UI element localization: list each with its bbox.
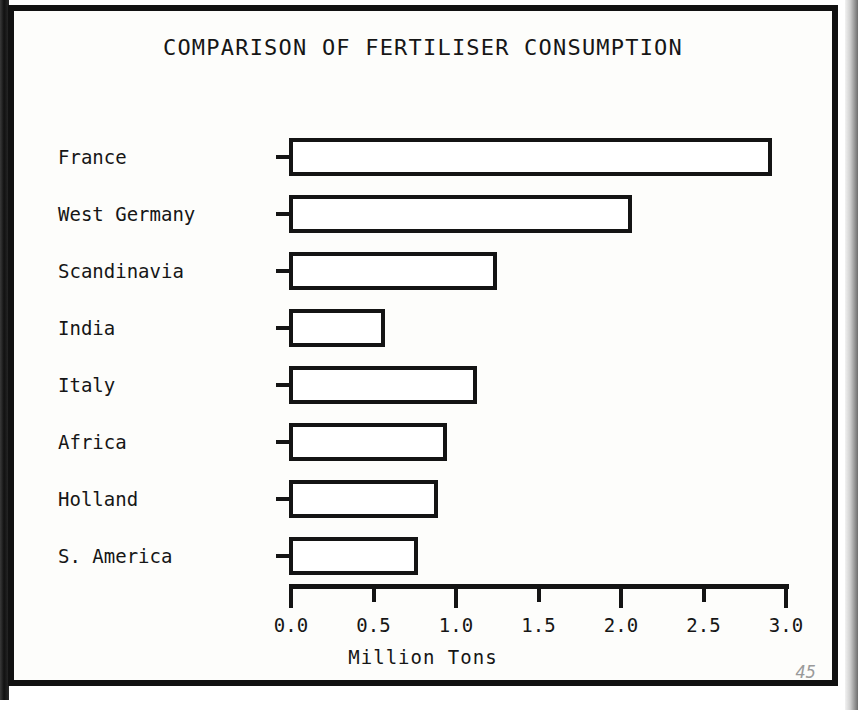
x-axis-tick-label: 0.0 <box>256 614 326 636</box>
x-axis-major-tick <box>289 589 293 608</box>
x-axis-tick-label: 2.0 <box>586 614 656 636</box>
x-axis-label: Million Tons <box>14 646 832 668</box>
category-tick <box>276 554 289 558</box>
bar <box>289 252 497 290</box>
x-axis-minor-tick <box>702 589 706 602</box>
x-axis-tick-label: 2.5 <box>669 614 739 636</box>
page-edge-shadow-right <box>845 0 858 710</box>
category-label: Italy <box>58 374 268 396</box>
x-axis-tick-label: 1.0 <box>421 614 491 636</box>
figure-inner: COMPARISON OF FERTILISER CONSUMPTION Fra… <box>14 11 832 680</box>
page-number: 45 <box>796 662 816 682</box>
category-tick <box>276 155 289 159</box>
x-axis-major-tick <box>619 589 623 608</box>
category-label: Holland <box>58 488 268 510</box>
category-tick <box>276 497 289 501</box>
x-axis-tick-label: 0.5 <box>339 614 409 636</box>
bar <box>289 309 385 347</box>
bar <box>289 480 438 518</box>
bar <box>289 138 772 176</box>
category-label: S. America <box>58 545 268 567</box>
category-label: Africa <box>58 431 268 453</box>
category-tick <box>276 212 289 216</box>
x-axis-minor-tick <box>537 589 541 602</box>
category-tick <box>276 440 289 444</box>
scanned-page: COMPARISON OF FERTILISER CONSUMPTION Fra… <box>0 0 858 710</box>
category-label: India <box>58 317 268 339</box>
x-axis-tick-label: 3.0 <box>751 614 821 636</box>
x-axis-tick-label: 1.5 <box>504 614 574 636</box>
category-label: West Germany <box>58 203 268 225</box>
chart-title: COMPARISON OF FERTILISER CONSUMPTION <box>14 35 832 60</box>
bar-chart-plot-area: FranceWest GermanyScandinaviaIndiaItalyA… <box>14 131 832 601</box>
figure-frame: COMPARISON OF FERTILISER CONSUMPTION Fra… <box>8 5 838 686</box>
category-label: Scandinavia <box>58 260 268 282</box>
category-tick <box>276 269 289 273</box>
category-tick <box>276 383 289 387</box>
x-axis-major-tick <box>454 589 458 608</box>
x-axis-minor-tick <box>372 589 376 602</box>
bar <box>289 423 447 461</box>
bar <box>289 537 418 575</box>
category-tick <box>276 326 289 330</box>
x-axis-major-tick <box>784 589 788 608</box>
bar <box>289 195 632 233</box>
category-label: France <box>58 146 268 168</box>
bar <box>289 366 477 404</box>
